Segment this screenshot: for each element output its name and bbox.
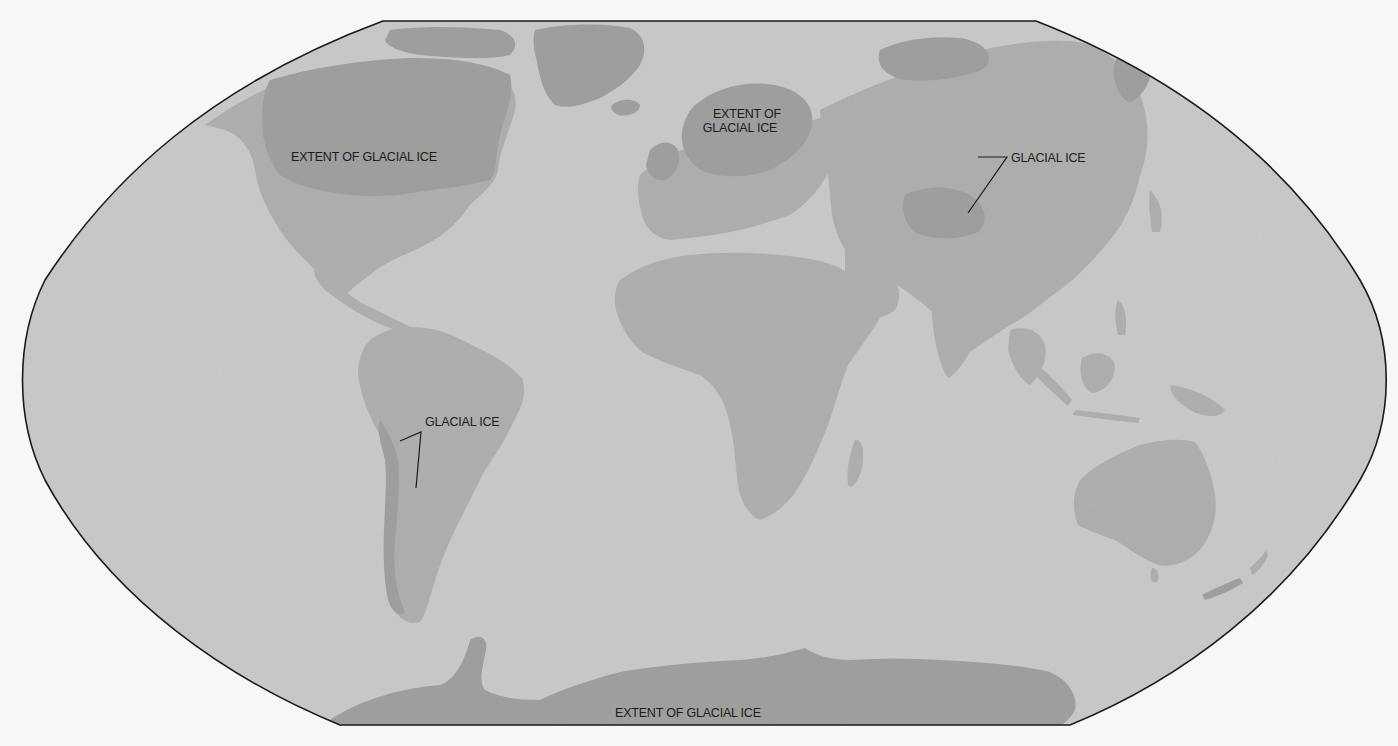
label-europe-ice-extent: EXTENT OF GLACIAL ICE bbox=[695, 107, 785, 135]
label-south-america-glacial-ice: GLACIAL ICE bbox=[425, 415, 499, 429]
label-antarctica-ice-extent: EXTENT OF GLACIAL ICE bbox=[615, 706, 761, 720]
label-asia-glacial-ice: GLACIAL ICE bbox=[1011, 151, 1085, 165]
label-north-america-ice-extent: EXTENT OF GLACIAL ICE bbox=[291, 150, 437, 164]
label-europe-line1: EXTENT OF bbox=[695, 107, 785, 121]
label-europe-line2: GLACIAL ICE bbox=[695, 121, 785, 135]
